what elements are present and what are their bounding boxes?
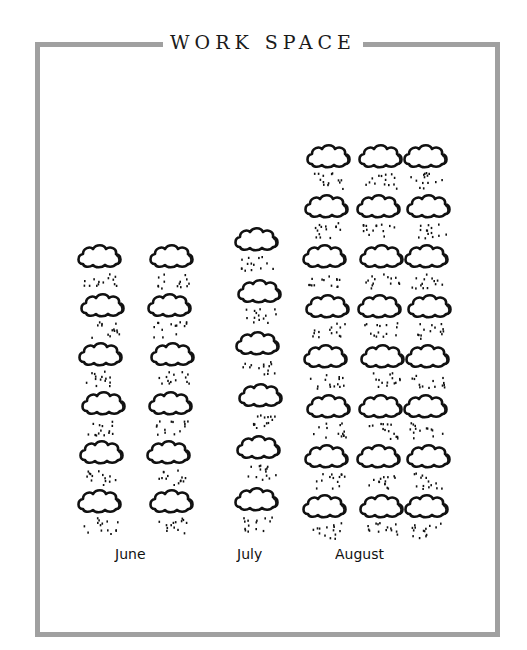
rain-cloud-icon (355, 292, 405, 340)
rain-cloud-icon (357, 492, 407, 540)
rain-cloud-icon (403, 342, 453, 390)
rain-cloud-icon (304, 392, 354, 440)
rain-cloud-icon (356, 142, 406, 190)
rain-cloud-icon (354, 192, 404, 240)
rain-cloud-icon (402, 242, 452, 290)
rain-cloud-icon (300, 242, 350, 290)
rain-cloud-icon (232, 485, 282, 533)
rain-cloud-icon (401, 142, 451, 190)
month-label-august: August (335, 546, 384, 563)
rain-cloud-icon (404, 192, 454, 240)
rain-cloud-icon (234, 433, 284, 481)
rain-cloud-icon (300, 492, 350, 540)
month-label-july: July (237, 546, 262, 563)
rain-cloud-icon (145, 291, 195, 339)
rain-cloud-icon (404, 442, 454, 490)
rain-cloud-icon (402, 492, 452, 540)
rain-cloud-icon (233, 329, 283, 377)
rain-cloud-icon (401, 392, 451, 440)
month-label-june: June (115, 546, 146, 563)
rain-cloud-icon (235, 277, 285, 325)
rain-cloud-icon (147, 242, 197, 290)
rain-cloud-icon (78, 291, 128, 339)
rain-cloud-icon (304, 142, 354, 190)
rain-cloud-icon (301, 342, 351, 390)
rain-cloud-icon (302, 192, 352, 240)
rain-cloud-icon (148, 340, 198, 388)
rain-cloud-icon (146, 389, 196, 437)
rain-cloud-icon (356, 392, 406, 440)
rain-cloud-icon (75, 242, 125, 290)
rain-cloud-icon (77, 438, 127, 486)
rain-cloud-icon (358, 342, 408, 390)
rain-cloud-icon (354, 442, 404, 490)
rain-cloud-icon (303, 292, 353, 340)
rain-cloud-icon (75, 487, 125, 535)
rain-cloud-icon (357, 242, 407, 290)
rain-cloud-icon (147, 487, 197, 535)
rain-cloud-icon (405, 292, 455, 340)
rain-cloud-icon (144, 438, 194, 486)
rain-cloud-icon (302, 442, 352, 490)
chart-title: WORK SPACE (163, 28, 363, 56)
rain-cloud-icon (76, 340, 126, 388)
rain-cloud-icon (236, 381, 286, 429)
rain-cloud-icon (79, 389, 129, 437)
rain-cloud-icon (232, 225, 282, 273)
